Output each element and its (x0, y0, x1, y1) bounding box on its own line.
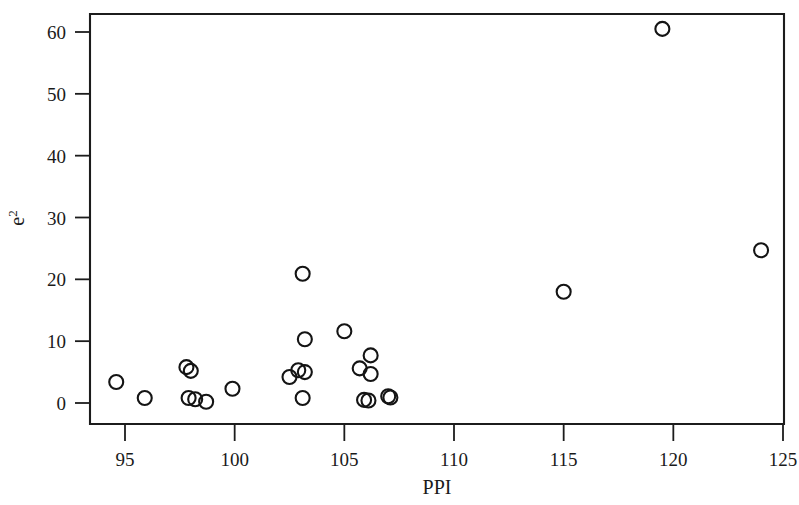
x-tick-label-100: 100 (220, 449, 249, 470)
y-tick-label-30: 30 (47, 208, 66, 229)
y-axis-title-group: e2 (5, 210, 28, 225)
y-axis-ticks (75, 32, 90, 403)
data-point (225, 382, 239, 396)
x-tick-label-125: 125 (769, 449, 798, 470)
x-tick-label-95: 95 (116, 449, 135, 470)
frame-border (90, 14, 784, 424)
y-axis-title: e2 (5, 210, 28, 225)
x-tick-label-120: 120 (659, 449, 688, 470)
data-point (298, 332, 312, 346)
data-point (364, 367, 378, 381)
data-point (296, 391, 310, 405)
data-point (138, 391, 152, 405)
data-point (337, 324, 351, 338)
y-tick-label-20: 20 (47, 269, 66, 290)
plot-canvas: 95100105110115120125 0102030405060 PPI e… (0, 0, 799, 505)
y-tick-label-40: 40 (47, 146, 66, 167)
x-axis-title: PPI (423, 476, 452, 498)
scatter-plot-figure: 95100105110115120125 0102030405060 PPI e… (0, 0, 799, 505)
y-tick-label-0: 0 (57, 393, 67, 414)
y-tick-label-50: 50 (47, 84, 66, 105)
data-point (109, 375, 123, 389)
x-tick-label-105: 105 (330, 449, 359, 470)
y-tick-label-60: 60 (47, 22, 66, 43)
x-tick-label-110: 110 (440, 449, 468, 470)
data-point (557, 285, 571, 299)
y-tick-label-10: 10 (47, 331, 66, 352)
x-axis-ticks (125, 424, 783, 441)
data-point (754, 243, 768, 257)
data-point (364, 348, 378, 362)
x-axis-tick-labels: 95100105110115120125 (116, 449, 798, 470)
data-point (655, 22, 669, 36)
x-tick-label-115: 115 (550, 449, 578, 470)
data-point (296, 267, 310, 281)
data-point (179, 360, 193, 374)
data-point-group (109, 22, 768, 409)
plot-frame (90, 14, 784, 424)
y-axis-tick-labels: 0102030405060 (47, 22, 66, 414)
data-point (184, 364, 198, 378)
